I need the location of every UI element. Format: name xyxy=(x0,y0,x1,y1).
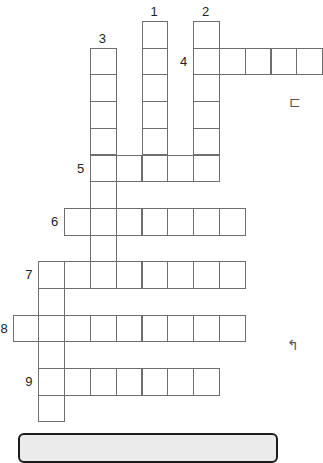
clue-number-1: 1 xyxy=(150,5,157,18)
clue-number-5: 5 xyxy=(77,162,84,175)
crossword-cell[interactable] xyxy=(142,128,169,156)
clue-number-7: 7 xyxy=(25,268,32,281)
crossword-cell[interactable] xyxy=(219,261,246,289)
crossword-cell[interactable] xyxy=(296,48,323,76)
crossword-cell[interactable] xyxy=(116,368,143,396)
bracket-glyph-icon: ⊏ xyxy=(289,95,301,109)
crossword-cell[interactable] xyxy=(271,48,298,76)
crossword-cell[interactable] xyxy=(13,315,40,343)
crossword-cell[interactable] xyxy=(38,368,65,396)
crossword-cell[interactable] xyxy=(142,48,169,76)
crossword-cell[interactable] xyxy=(38,395,65,423)
crossword-cell[interactable] xyxy=(219,315,246,343)
crossword-cell[interactable] xyxy=(90,315,117,343)
crossword-cell[interactable] xyxy=(142,74,169,102)
crossword-cell[interactable] xyxy=(90,261,117,289)
crossword-cell[interactable] xyxy=(193,48,220,76)
crossword-cell[interactable] xyxy=(90,74,117,102)
crossword-cell[interactable] xyxy=(167,208,194,236)
crossword-cell[interactable] xyxy=(167,368,194,396)
crossword-cell[interactable] xyxy=(90,235,117,263)
crossword-cell[interactable] xyxy=(64,261,91,289)
crossword-cell[interactable] xyxy=(167,261,194,289)
crossword-cell[interactable] xyxy=(64,315,91,343)
crossword-cell[interactable] xyxy=(193,261,220,289)
hook-glyph-icon: ↰ xyxy=(287,338,299,352)
clue-number-4: 4 xyxy=(180,55,187,68)
clue-number-8: 8 xyxy=(1,322,8,335)
crossword-cell[interactable] xyxy=(193,101,220,129)
crossword-cell[interactable] xyxy=(142,208,169,236)
crossword-cell[interactable] xyxy=(193,315,220,343)
crossword-cell[interactable] xyxy=(142,155,169,183)
crossword-cell[interactable] xyxy=(90,155,117,183)
crossword-cell[interactable] xyxy=(90,181,117,209)
crossword-cell[interactable] xyxy=(116,208,143,236)
crossword-cell[interactable] xyxy=(219,48,246,76)
clue-number-3: 3 xyxy=(99,32,106,45)
crossword-cell[interactable] xyxy=(142,315,169,343)
crossword-cell[interactable] xyxy=(193,74,220,102)
clue-panel xyxy=(18,433,278,463)
crossword-cell[interactable] xyxy=(193,368,220,396)
crossword-cell[interactable] xyxy=(90,48,117,76)
crossword-cell[interactable] xyxy=(142,368,169,396)
crossword-cell[interactable] xyxy=(116,315,143,343)
crossword-cell[interactable] xyxy=(64,208,91,236)
crossword-cell[interactable] xyxy=(167,155,194,183)
crossword-cell[interactable] xyxy=(116,261,143,289)
clue-number-9: 9 xyxy=(25,375,32,388)
crossword-cell[interactable] xyxy=(38,315,65,343)
crossword-cell[interactable] xyxy=(38,261,65,289)
clue-number-6: 6 xyxy=(51,215,58,228)
crossword-cell[interactable] xyxy=(245,48,272,76)
crossword-cell[interactable] xyxy=(90,101,117,129)
crossword-cell[interactable] xyxy=(38,341,65,369)
crossword-cell[interactable] xyxy=(142,21,169,49)
crossword-cell[interactable] xyxy=(64,368,91,396)
crossword-cell[interactable] xyxy=(193,21,220,49)
crossword-cell[interactable] xyxy=(116,155,143,183)
crossword-cell[interactable] xyxy=(193,128,220,156)
crossword-cell[interactable] xyxy=(90,368,117,396)
crossword-cell[interactable] xyxy=(38,288,65,316)
crossword-cell[interactable] xyxy=(193,155,220,183)
crossword-cell[interactable] xyxy=(142,101,169,129)
crossword-cell[interactable] xyxy=(219,208,246,236)
crossword-cell[interactable] xyxy=(193,208,220,236)
crossword-cell[interactable] xyxy=(142,261,169,289)
crossword-cell[interactable] xyxy=(167,315,194,343)
crossword-cell[interactable] xyxy=(90,208,117,236)
crossword-cell[interactable] xyxy=(90,128,117,156)
clue-number-2: 2 xyxy=(202,5,209,18)
